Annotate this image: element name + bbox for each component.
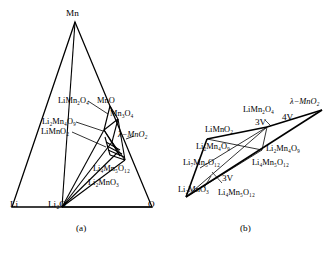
line-mn-li2o: [62, 22, 75, 207]
leader-limno2: [72, 132, 106, 147]
b-limn2o4-lambda: [267, 110, 322, 127]
corner-label-li2o: Li₂O: [48, 200, 66, 209]
figure-container: Li Li₂O O Mn LiMn₂O₄ MnO Li₂Mn₄O₉ Mn₃O₄ …: [0, 0, 333, 258]
phase-label-b-li7mn5o12: Li₇Mn₅O₁₂: [183, 159, 220, 167]
phase-label-b-limno2: LiMnO₂: [205, 126, 233, 134]
phase-label-b-li4mn5o12-mid: Li₄Mn₅O₁₂: [252, 159, 289, 167]
phase-label-a-mn3o4: Mn₃O₄: [110, 110, 134, 118]
corner-label-li: Li: [10, 200, 18, 209]
panel-caption-b: (b): [240, 224, 251, 233]
phase-label-b-li2mno3: Li₂MnO₃: [178, 186, 209, 194]
phase-label-a-limno2: LiMnO₂: [41, 128, 69, 136]
corner-label-o: O: [148, 200, 155, 209]
phase-label-a-li4mn5o12: Li₄Mn₅O₁₂: [93, 165, 130, 173]
phase-label-b-lambda-mno2: λ−MnO₂: [290, 98, 319, 106]
phase-label-b-li2mn4o9-right: Li₂Mn₄O₉: [266, 145, 300, 153]
tie-li2o-limn2o4: [62, 142, 112, 207]
leader-li2mn4o9: [76, 122, 103, 131]
phase-label-b-li4mn5o12-bottom: Li₄Mn₅O₁₂: [218, 189, 255, 197]
phase-label-a-lambda-mno2: λ−MnO₂: [118, 131, 147, 139]
b-leader-3v-lower: [212, 172, 222, 183]
phase-label-a-mno: MnO: [97, 97, 115, 105]
voltage-label-3v-lower: 3V: [222, 174, 233, 183]
phase-label-b-limn2o4: LiMn₂O₄: [243, 106, 274, 114]
corner-label-mn: Mn: [66, 9, 79, 18]
phase-label-a-limn2o4: LiMn₂O₄: [58, 97, 89, 105]
panel-caption-a: (a): [76, 224, 86, 233]
phase-label-a-li2mn4o9: Li₂Mn₄O₉: [42, 118, 76, 126]
phase-label-a-li2mno3: Li₂MnO₃: [88, 179, 119, 187]
voltage-label-3v-upper: 3V: [255, 118, 266, 127]
phase-label-b-li2mn4o9-left: Li₂Mn₄O₉: [196, 143, 230, 151]
voltage-label-4v: 4V: [282, 113, 293, 122]
